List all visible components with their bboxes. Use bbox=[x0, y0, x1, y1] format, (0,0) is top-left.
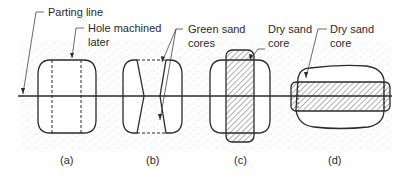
label-green-sand: Green sand bbox=[188, 23, 245, 35]
label-hole-machined-later: later bbox=[88, 36, 109, 48]
label-green-sand-cores: cores bbox=[188, 37, 215, 49]
label-parting-line: Parting line bbox=[48, 6, 103, 18]
label-dry-sand-d: Dry sand bbox=[330, 23, 374, 35]
label-dry-sand-core-d: core bbox=[330, 37, 351, 49]
label-dry-sand-c: Dry sand bbox=[268, 23, 312, 35]
caption-c: (c) bbox=[234, 154, 247, 166]
caption-a: (a) bbox=[60, 154, 73, 166]
caption-d: (d) bbox=[328, 154, 341, 166]
caption-b: (b) bbox=[146, 154, 159, 166]
label-dry-sand-core-c: core bbox=[268, 37, 289, 49]
label-hole-machined: Hole machined bbox=[88, 22, 161, 34]
